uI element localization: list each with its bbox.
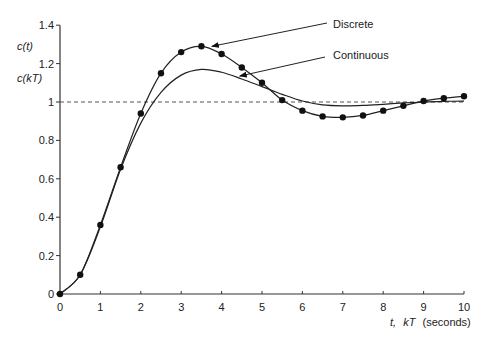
x-tick-label: 8 [380,301,386,313]
discrete-point [239,64,245,70]
y-tick-label: 0.2 [39,250,54,262]
discrete-point [279,97,285,103]
axes: 01234567891000.20.40.60.811.21.4 [39,19,470,313]
step-response-chart: 01234567891000.20.40.60.811.21.4 Discret… [0,0,486,344]
x-tick-label: 1 [97,301,103,313]
discrete-point [319,113,325,119]
discrete-point [380,107,386,113]
discrete-point [57,291,63,297]
x-axis-label: t, kT (seconds) [390,316,471,328]
x-tick-label: 4 [219,301,225,313]
discrete-point [420,98,426,104]
x-axis-label-t: t, [390,316,396,328]
x-tick-label: 9 [421,301,427,313]
discrete-point [360,112,366,118]
discrete-point [340,114,346,120]
x-tick-label: 5 [259,301,265,313]
x-tick-label: 2 [138,301,144,313]
y-axis-label-ckt: c(kT) [17,72,42,84]
annotation-arrow-discrete [212,23,327,46]
annotation-label-discrete: Discrete [333,18,373,30]
y-axis-label-ct: c(t) [17,40,33,52]
y-tick-label: 1 [48,96,54,108]
discrete-point [461,93,467,99]
discrete-point [299,107,305,113]
y-tick-label: 0.4 [39,211,54,223]
discrete-point [178,49,184,55]
y-tick-label: 1.4 [39,19,54,31]
discrete-point [97,222,103,228]
discrete-point [198,43,204,49]
y-tick-label: 0.6 [39,173,54,185]
x-tick-label: 7 [340,301,346,313]
discrete-point [158,70,164,76]
discrete-point [77,272,83,278]
x-axis-label-unit: (seconds) [422,316,470,328]
discrete-point [400,103,406,109]
x-tick-label: 10 [458,301,470,313]
discrete-point [441,95,447,101]
y-tick-label: 1.2 [39,58,54,70]
y-tick-label: 0 [48,288,54,300]
annotation-label-continuous: Continuous [333,49,389,61]
x-axis-label-kt: kT [403,316,417,328]
x-tick-label: 6 [299,301,305,313]
y-tick-label: 0.8 [39,134,54,146]
annotation-arrow-continuous [240,57,325,76]
series-discrete [57,43,467,297]
discrete-point [117,164,123,170]
discrete-point [218,51,224,57]
discrete-point [259,80,265,86]
x-tick-label: 0 [57,301,63,313]
discrete-point [138,110,144,116]
x-tick-label: 3 [178,301,184,313]
annotations: DiscreteContinuous [212,18,389,76]
